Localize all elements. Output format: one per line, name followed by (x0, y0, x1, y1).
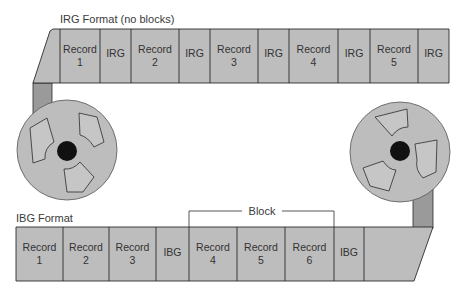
svg-text:5: 5 (391, 56, 397, 68)
svg-text:IRG: IRG (106, 47, 125, 59)
right-reel-icon (350, 102, 450, 202)
svg-text:1: 1 (37, 254, 43, 266)
svg-text:1: 1 (77, 56, 83, 68)
svg-text:Record: Record (23, 241, 57, 253)
irg-cell-gap-2: IRG (185, 47, 204, 59)
svg-text:Record: Record (196, 241, 230, 253)
svg-text:3: 3 (130, 254, 136, 266)
block-label: Block (249, 205, 276, 217)
svg-text:4: 4 (210, 254, 216, 266)
svg-text:IBG: IBG (340, 246, 358, 258)
svg-text:Record: Record (377, 43, 411, 55)
svg-text:5: 5 (258, 254, 264, 266)
svg-text:Record: Record (244, 241, 278, 253)
left-reel-icon (17, 100, 117, 200)
ibg-tape-strip: Record 1 Record 2 Record 3 IBG Record 4 … (16, 227, 433, 281)
svg-text:3: 3 (231, 56, 237, 68)
svg-text:2: 2 (83, 254, 89, 266)
irg-format-title: IRG Format (no blocks) (60, 13, 174, 25)
svg-text:IRG: IRG (264, 47, 283, 59)
ibg-cell-gap-2: IBG (340, 246, 358, 258)
svg-text:Record: Record (297, 43, 331, 55)
svg-text:Record: Record (293, 241, 327, 253)
svg-text:Record: Record (69, 241, 103, 253)
svg-text:Record: Record (116, 241, 150, 253)
svg-text:Record: Record (138, 43, 172, 55)
svg-text:Record: Record (217, 43, 251, 55)
svg-text:Record: Record (63, 43, 97, 55)
ibg-format-title: IBG Format (16, 212, 73, 224)
svg-text:IBG: IBG (163, 246, 181, 258)
svg-text:IRG: IRG (185, 47, 204, 59)
irg-cell-gap-1: IRG (106, 47, 125, 59)
svg-text:6: 6 (307, 254, 313, 266)
tape-format-diagram: IRG Format (no blocks) Record 1 IRG Reco… (0, 0, 468, 298)
irg-tape-strip: Record 1 IRG Record 2 IRG Record 3 IRG R… (33, 29, 449, 83)
svg-text:4: 4 (311, 56, 317, 68)
svg-text:IRG: IRG (345, 47, 364, 59)
ibg-cell-gap-1: IBG (163, 246, 181, 258)
svg-text:IRG: IRG (424, 47, 443, 59)
svg-text:2: 2 (152, 56, 158, 68)
irg-cell-gap-3: IRG (264, 47, 283, 59)
irg-cell-gap-4: IRG (345, 47, 364, 59)
irg-cell-gap-5: IRG (424, 47, 443, 59)
